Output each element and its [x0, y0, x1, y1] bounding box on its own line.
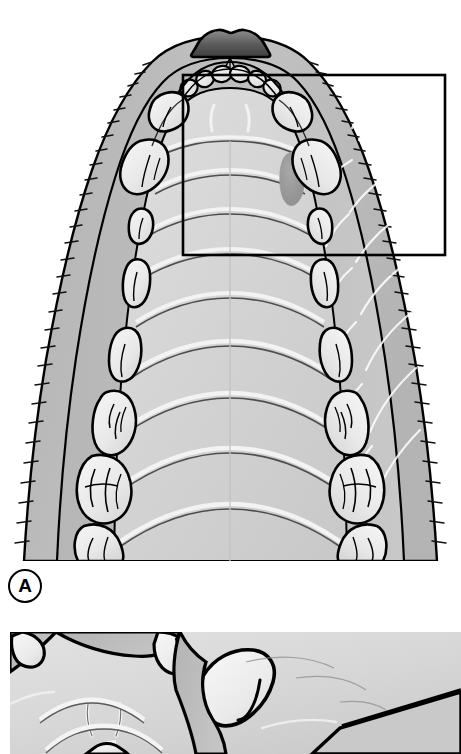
premolar	[123, 259, 150, 307]
panel-a-illustration	[0, 0, 461, 561]
molar	[93, 391, 136, 455]
molar	[330, 455, 385, 524]
panel-b-illustration	[10, 632, 461, 754]
molar	[320, 328, 352, 382]
molar	[325, 391, 368, 455]
rhinarium	[191, 30, 270, 57]
panel-a	[0, 0, 461, 561]
panel-label-a: A	[8, 569, 42, 603]
molar	[77, 455, 132, 524]
panel-b	[10, 632, 461, 754]
molar	[109, 328, 141, 382]
premolar	[311, 259, 338, 307]
figure-root: A	[0, 0, 461, 754]
